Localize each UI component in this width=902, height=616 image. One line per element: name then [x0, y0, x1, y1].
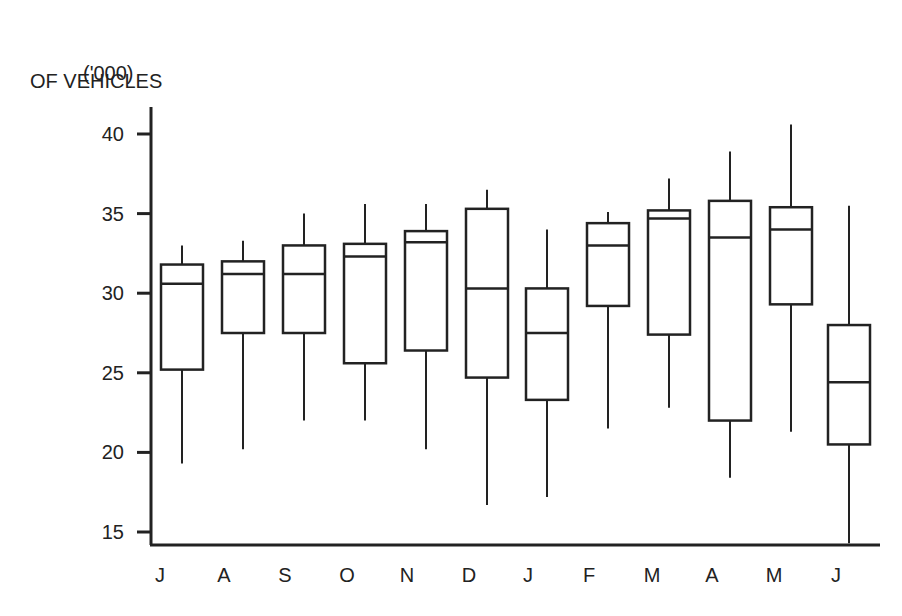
box-m-8: [648, 179, 690, 408]
box-m-10: [770, 124, 812, 431]
box-d-5: [466, 190, 508, 505]
y-axis-labels: 152025303540: [102, 123, 124, 543]
y-tick-label: 15: [102, 521, 124, 543]
box-a-1: [222, 241, 264, 450]
iqr-box: [587, 223, 629, 306]
x-tick-label: J: [523, 564, 533, 586]
x-tick-label: O: [339, 564, 355, 586]
x-tick-label: D: [462, 564, 476, 586]
iqr-box: [222, 261, 264, 333]
x-tick-label: A: [705, 564, 719, 586]
iqr-box: [466, 209, 508, 378]
x-tick-label: M: [644, 564, 661, 586]
box-f-7: [587, 212, 629, 429]
y-tick-label: 20: [102, 441, 124, 463]
x-tick-label: F: [583, 564, 595, 586]
iqr-box: [770, 207, 812, 304]
x-axis-labels: JASONDJFMAMJ: [155, 564, 841, 586]
box-a-9: [709, 152, 751, 478]
iqr-box: [161, 265, 203, 370]
iqr-box: [648, 210, 690, 334]
iqr-box: [344, 244, 386, 363]
box-j-6: [526, 230, 568, 497]
iqr-box: [283, 245, 325, 333]
x-tick-label: A: [217, 564, 231, 586]
box-s-2: [283, 214, 325, 421]
y-tick-label: 35: [102, 203, 124, 225]
x-tick-label: J: [831, 564, 841, 586]
x-tick-label: N: [400, 564, 414, 586]
box-plot-chart: JASONDJFMAMJ 152025303540: [0, 0, 902, 616]
box-series: [161, 124, 870, 543]
x-tick-label: S: [278, 564, 291, 586]
box-j-0: [161, 245, 203, 463]
x-tick-label: J: [155, 564, 165, 586]
iqr-box: [526, 288, 568, 399]
y-tick-label: 25: [102, 362, 124, 384]
y-tick-label: 40: [102, 123, 124, 145]
iqr-box: [709, 201, 751, 421]
box-j-11: [828, 206, 870, 544]
x-tick-label: M: [766, 564, 783, 586]
box-n-4: [405, 204, 447, 449]
box-o-3: [344, 204, 386, 421]
iqr-box: [828, 325, 870, 444]
iqr-box: [405, 231, 447, 350]
y-tick-label: 30: [102, 282, 124, 304]
